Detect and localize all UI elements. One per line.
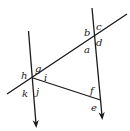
angle-label-h: h [21, 70, 27, 81]
angle-label-a: a [84, 44, 90, 55]
angle-label-f: f [89, 85, 96, 96]
angle-label-d: d [96, 37, 102, 48]
angle-label-j: j [34, 86, 39, 97]
angle-label-b: b [84, 27, 90, 38]
transversal-line [7, 14, 127, 94]
angle-label-i: i [44, 72, 47, 83]
angle-diagram: b c a d f e g h i k j [0, 0, 130, 131]
angle-label-k: k [22, 88, 28, 99]
diagram-canvas: b c a d f e g h i k j [0, 0, 130, 131]
angle-label-g: g [35, 63, 41, 74]
angle-label-c: c [96, 21, 102, 32]
angle-label-e: e [91, 102, 97, 113]
